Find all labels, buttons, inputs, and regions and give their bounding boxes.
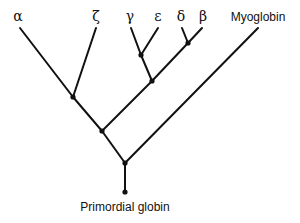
nodes <box>70 40 190 194</box>
branch-epsilon <box>141 28 158 55</box>
branch-alpha-zeta <box>73 97 102 131</box>
node-beta-like <box>149 78 154 83</box>
node-gamma-epsilon <box>138 52 143 57</box>
node-delta-beta <box>185 40 190 45</box>
label-zeta: ζ <box>92 8 100 24</box>
branch-beta <box>188 28 202 43</box>
branches <box>20 28 258 192</box>
label-epsilon: ε <box>154 8 161 24</box>
branch-gamma <box>131 28 141 55</box>
branch-gamma-epsilon <box>141 55 152 81</box>
node-globin-split <box>122 160 127 165</box>
branch-delta-beta <box>152 43 188 81</box>
branch-alpha <box>20 28 73 97</box>
node-primordial <box>122 189 127 194</box>
node-hemoglobin <box>99 128 104 133</box>
branch-zeta <box>73 28 96 97</box>
branch-hemoglobin <box>102 131 125 163</box>
label-myoglobin: Myoglobin <box>231 10 286 24</box>
node-alpha-zeta <box>70 94 75 99</box>
label-beta: β <box>199 8 207 24</box>
globin-phylogeny-diagram: α ζ γ ε δ β Myoglobin Primordial globin <box>0 0 300 223</box>
tree-canvas: α ζ γ ε δ β Myoglobin Primordial globin <box>0 0 300 223</box>
label-gamma: γ <box>126 8 134 24</box>
label-primordial-globin: Primordial globin <box>80 200 169 214</box>
labels: α ζ γ ε δ β Myoglobin Primordial globin <box>13 8 285 214</box>
label-alpha: α <box>13 8 23 24</box>
label-delta: δ <box>177 8 185 24</box>
branch-beta-like <box>102 81 152 131</box>
